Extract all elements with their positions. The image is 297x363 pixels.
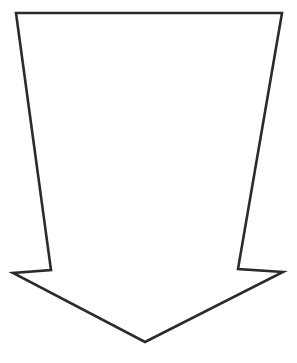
downward-arrow-shape[interactable] (13, 13, 283, 342)
diagram-canvas (0, 0, 297, 363)
